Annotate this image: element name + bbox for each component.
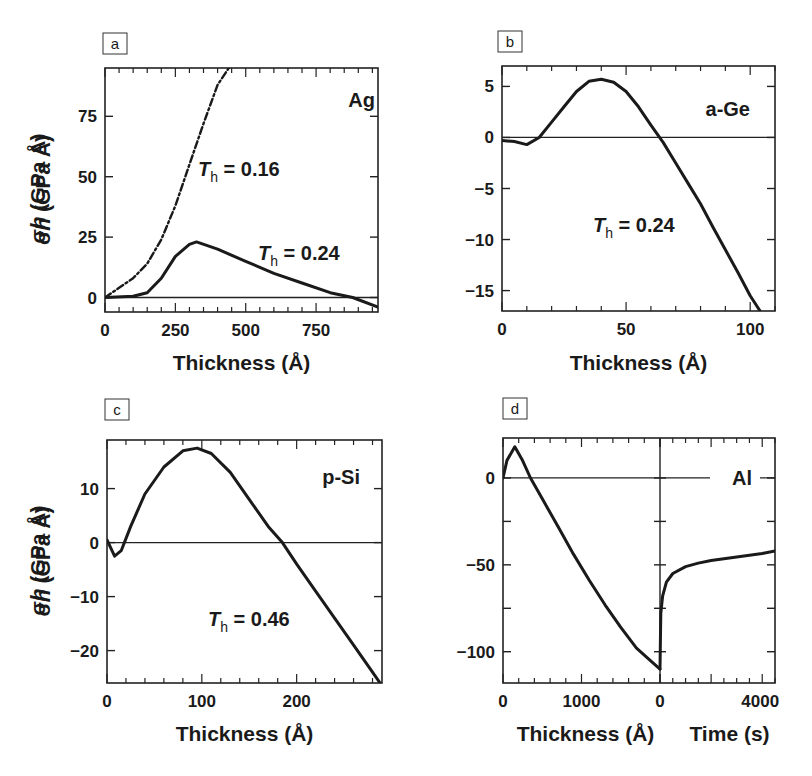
data-series-line [660, 551, 775, 669]
x2-axis-label: Time (s) [689, 722, 769, 745]
y-tick-label: −10 [70, 588, 99, 607]
panel-letter-badge: a [103, 33, 127, 54]
y-tick-label: 10 [80, 480, 99, 499]
y-tick-label: 75 [78, 107, 97, 126]
panel-letter: b [506, 33, 514, 50]
y-tick-label: −10 [465, 231, 494, 250]
panel-a: a02550750250500750AgTh = 0.16Th = 0.24σh… [31, 33, 378, 374]
y-tick-label: 50 [78, 168, 97, 187]
plot-frame [105, 68, 378, 312]
x-tick-label: 50 [617, 320, 636, 339]
panel-letter: a [111, 35, 120, 52]
y-tick-label: −5 [475, 180, 494, 199]
data-series-line [503, 447, 660, 669]
material-label: a-Ge [706, 98, 750, 120]
panel-letter: c [113, 401, 121, 418]
x-axis-label: Thickness (Å) [517, 722, 655, 745]
panel-letter-badge: b [498, 31, 522, 52]
x-axis-label: Thickness (Å) [173, 351, 311, 374]
x-tick-label: 0 [100, 321, 109, 340]
panel-letter-badge: c [105, 399, 129, 420]
y-tick-label: 0 [486, 469, 495, 488]
panel-c: c100−10−200100200p-SiTh = 0.46σh (GPa Å)… [31, 399, 382, 745]
x2-tick-label: 0 [655, 692, 664, 711]
y-axis-label: σh (GPa Å) [26, 133, 49, 243]
material-label: Al [732, 467, 752, 489]
threshold-annotation: Th = 0.16 [198, 158, 280, 185]
x-tick-label: 200 [282, 692, 310, 711]
threshold-annotation: Th = 0.46 [208, 608, 290, 635]
x-tick-label: 250 [161, 321, 189, 340]
panel-letter: d [511, 400, 519, 417]
x-axis-label: Thickness (Å) [570, 351, 708, 374]
panel-letter-badge: d [503, 398, 527, 419]
x-tick-label: 100 [736, 320, 764, 339]
y-tick-label: −15 [465, 282, 494, 301]
x-tick-label: 1000 [563, 692, 601, 711]
x-tick-label: 0 [498, 692, 507, 711]
panel-d: d0−50−1000100004000AlAlσh (GPa Å)Thickne… [26, 398, 779, 745]
y-axis-label: σh (GPa Å) [26, 505, 49, 615]
y-tick-label: −20 [70, 642, 99, 661]
y-tick-label: −100 [457, 643, 495, 662]
x-tick-label: 0 [497, 320, 506, 339]
material-label: p-Si [322, 466, 360, 488]
panel-b: b50−5−10−15050100a-GeTh = 0.24σh (GPa Å)… [26, 31, 775, 374]
y-tick-label: 0 [90, 534, 99, 553]
y-tick-label: 25 [78, 228, 97, 247]
material-label: Ag [348, 89, 375, 111]
y-tick-label: 0 [485, 128, 494, 147]
x-tick-label: 100 [188, 692, 216, 711]
x-tick-label: 750 [302, 321, 330, 340]
y-tick-label: 0 [88, 289, 97, 308]
threshold-annotation: Th = 0.24 [258, 242, 341, 269]
figure-canvas: a02550750250500750AgTh = 0.16Th = 0.24σh… [0, 0, 812, 776]
threshold-annotation: Th = 0.24 [593, 214, 676, 241]
x-axis-label: Thickness (Å) [176, 722, 314, 745]
x-tick-label: 500 [232, 321, 260, 340]
x-tick-label: 0 [102, 692, 111, 711]
x2-tick-label: 4000 [741, 692, 779, 711]
y-tick-label: 5 [485, 77, 494, 96]
y-tick-label: −50 [466, 556, 495, 575]
